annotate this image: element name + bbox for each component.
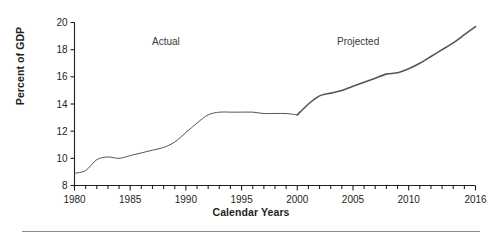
y-axis-tick-label: 10 <box>56 153 68 164</box>
y-axis-tick-label: 14 <box>56 99 68 110</box>
x-axis-tick-label: 2000 <box>286 194 309 205</box>
series-line-projected <box>297 27 475 115</box>
annotation-projected: Projected <box>337 36 379 47</box>
x-axis-tick-label: 1985 <box>119 194 142 205</box>
y-axis-tick-label: 18 <box>56 44 68 55</box>
x-axis-tick-label: 1990 <box>175 194 198 205</box>
x-axis-title: Calendar Years <box>0 206 502 218</box>
axis-spines <box>75 23 476 186</box>
x-axis-tick-label: 1995 <box>230 194 253 205</box>
y-axis-tick-label: 8 <box>62 180 68 191</box>
x-axis-tick-label: 2016 <box>464 194 487 205</box>
chart-figure: 8101214161820198019851990199520002005201… <box>0 0 502 241</box>
series-line-actual <box>75 112 298 173</box>
y-axis-tick-label: 16 <box>56 71 68 82</box>
x-axis-tick-label: 2005 <box>342 194 365 205</box>
annotation-actual: Actual <box>152 36 180 47</box>
x-axis-tick-label: 1980 <box>63 194 86 205</box>
x-axis-tick-label: 2010 <box>398 194 421 205</box>
y-axis-title: Percent of GDP <box>14 16 26 116</box>
y-axis-tick-label: 12 <box>56 126 68 137</box>
health-spending-line-chart: 8101214161820198019851990199520002005201… <box>0 0 502 241</box>
footer-divider <box>22 231 480 232</box>
y-axis-tick-label: 20 <box>56 17 68 28</box>
